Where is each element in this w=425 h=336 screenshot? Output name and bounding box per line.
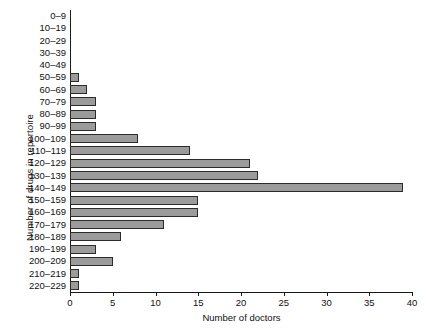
x-axis-tick-label: 5 [110, 297, 115, 308]
bar-row: 180–189 [70, 231, 412, 243]
x-axis-tick [241, 292, 242, 296]
bar-row: 120–129 [70, 157, 412, 169]
bar-row: 170–179 [70, 218, 412, 230]
x-axis-tick [327, 292, 328, 296]
bar-row: 130–139 [70, 169, 412, 181]
bar-row: 220–229 [70, 280, 412, 292]
bar [70, 73, 79, 82]
bar-row: 50–59 [70, 71, 412, 83]
bar [70, 134, 138, 143]
bar-row: 30–39 [70, 47, 412, 59]
bar [70, 196, 198, 205]
bar-row: 100–109 [70, 133, 412, 145]
y-axis-tick-label: 180–189 [29, 232, 66, 242]
x-axis-tick [198, 292, 199, 296]
y-axis-tick-label: 50–59 [40, 73, 66, 83]
y-axis-tick-label: 110–119 [30, 146, 66, 156]
bar [70, 110, 96, 119]
x-axis-tick-label: 30 [321, 297, 332, 308]
bar [70, 171, 258, 180]
y-axis-tick-label: 90–99 [40, 122, 66, 132]
bar [70, 208, 198, 217]
y-axis-tick-label: 70–79 [40, 97, 66, 107]
bar-row: 160–169 [70, 206, 412, 218]
y-axis-tick-label: 80–89 [40, 109, 66, 119]
bar-row: 140–149 [70, 182, 412, 194]
x-axis-tick [156, 292, 157, 296]
y-axis-tick-label: 170–179 [29, 220, 66, 230]
bar-row: 110–119 [70, 145, 412, 157]
bar [70, 97, 96, 106]
bar-row: 10–19 [70, 22, 412, 34]
bar-row: 80–89 [70, 108, 412, 120]
y-axis-tick-label: 100–109 [29, 134, 66, 144]
y-axis-tick-label: 120–129 [29, 159, 66, 169]
y-axis-tick-label: 190–199 [29, 244, 66, 254]
bar [70, 245, 96, 254]
bar [70, 159, 250, 168]
y-axis-tick-label: 140–149 [29, 183, 66, 193]
x-axis-tick [412, 292, 413, 296]
plot-area: 0–910–1920–2930–3940–4950–5960–6970–7980… [70, 10, 412, 292]
x-axis-tick-label: 25 [278, 297, 289, 308]
bar-row: 40–49 [70, 59, 412, 71]
bar-row: 70–79 [70, 96, 412, 108]
bar-row: 190–199 [70, 243, 412, 255]
x-axis-tick [369, 292, 370, 296]
y-axis-tick-label: 130–139 [29, 171, 66, 181]
y-axis-tick-label: 20–29 [40, 36, 66, 46]
histogram-chart: Number of drugs in repertoire 0–910–1920… [0, 0, 425, 336]
bar [70, 122, 96, 131]
bar-row: 60–69 [70, 84, 412, 96]
y-axis-tick-label: 30–39 [40, 48, 66, 58]
y-axis-tick-label: 150–159 [29, 195, 66, 205]
y-axis-tick-label: 160–169 [29, 208, 66, 218]
y-axis-tick-label: 210–219 [29, 269, 66, 279]
bar-row: 90–99 [70, 120, 412, 132]
bar [70, 281, 79, 290]
y-axis-tick-label: 40–49 [40, 60, 66, 70]
x-axis-tick-label: 40 [407, 297, 418, 308]
x-axis-tick-label: 15 [193, 297, 204, 308]
bar [70, 220, 164, 229]
x-axis-tick-label: 10 [150, 297, 161, 308]
y-axis-tick-label: 200–209 [29, 257, 66, 267]
x-axis-tick-label: 20 [236, 297, 247, 308]
bar [70, 269, 79, 278]
bar [70, 257, 113, 266]
x-axis-title: Number of doctors [70, 312, 413, 323]
bar-row: 20–29 [70, 35, 412, 47]
y-axis-tick-label: 220–229 [29, 281, 66, 291]
bar [70, 85, 87, 94]
x-axis-tick [70, 292, 71, 296]
bar-row: 210–219 [70, 267, 412, 279]
y-axis-tick-label: 60–69 [40, 85, 66, 95]
x-axis-tick-label: 35 [364, 297, 375, 308]
y-axis-tick-label: 0–9 [50, 11, 66, 21]
bar-row: 0–9 [70, 10, 412, 22]
y-axis-tick-label: 10–19 [40, 24, 66, 34]
bar [70, 232, 121, 241]
x-axis-tick [113, 292, 114, 296]
x-axis-tick-label: 0 [67, 297, 72, 308]
bar [70, 146, 190, 155]
bar-row: 150–159 [70, 194, 412, 206]
bar-row: 200–209 [70, 255, 412, 267]
bar [70, 183, 403, 192]
x-axis-tick [284, 292, 285, 296]
